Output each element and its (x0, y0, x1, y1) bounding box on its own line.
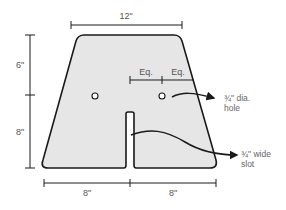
slot-callout-line2: slot (241, 159, 255, 169)
dimension-bottom-left-label: 8" (83, 188, 91, 198)
dimension-bottom-right-label: 8" (169, 188, 177, 198)
spacing-left-label: Eq. (139, 67, 153, 77)
dimension-bottom (44, 179, 216, 187)
dimension-top-label: 12" (119, 11, 132, 21)
slot-callout-line1: ¾" wide (241, 149, 271, 159)
spacing-right-label: Eq. (171, 67, 185, 77)
dimension-upper-height-label: 6" (16, 60, 24, 70)
dimension-top (71, 21, 182, 29)
hole-callout-line2: hole (224, 103, 240, 113)
dimension-left (25, 35, 35, 168)
hole-callout-line1: ¾" dia. (224, 93, 250, 103)
plate-diagram: 12" 6" 8" Eq. Eq. ¾" dia. hole ¾" wide s… (0, 0, 286, 210)
hole-right (159, 93, 165, 99)
plate-outline (42, 35, 216, 168)
hole-left (92, 93, 98, 99)
dimension-lower-height-label: 8" (16, 127, 24, 137)
